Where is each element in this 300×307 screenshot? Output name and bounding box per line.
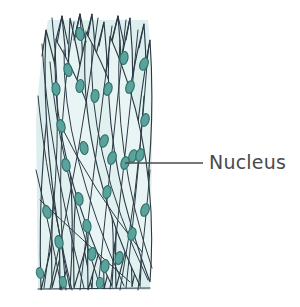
figure-root: Nucleus — [0, 0, 300, 307]
nucleus-label: Nucleus — [209, 150, 286, 174]
